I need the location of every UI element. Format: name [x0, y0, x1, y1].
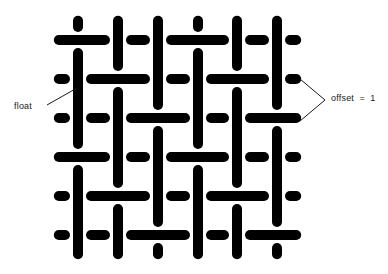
warp-segment — [272, 16, 282, 110]
warp-segment — [113, 204, 123, 259]
weft-segment — [126, 152, 150, 162]
weft-segment — [54, 191, 70, 201]
weft-segment — [54, 35, 110, 45]
weave-diagram: float offset = 1 — [0, 0, 388, 274]
warp-segment — [232, 204, 242, 259]
weft-segment — [166, 35, 229, 45]
warp-segment — [113, 87, 123, 188]
weft-segment — [245, 113, 301, 123]
weft-segment — [206, 191, 269, 201]
weave-canvas — [0, 0, 388, 274]
weft-segment — [245, 35, 269, 45]
weft-segment — [54, 74, 70, 84]
weft-segment — [285, 74, 301, 84]
weft-segment — [54, 230, 70, 240]
weft-segment — [245, 230, 301, 240]
weft-segment — [206, 74, 269, 84]
warp-segment — [272, 243, 282, 259]
weft-segment — [166, 74, 190, 84]
weft-segment — [126, 230, 190, 240]
weft-segment — [126, 35, 150, 45]
warp-segment — [153, 126, 163, 227]
warp-segment — [153, 243, 163, 259]
weft-segment — [206, 113, 229, 123]
warp-segment — [113, 16, 123, 71]
weft-segment — [86, 230, 110, 240]
weft-segment — [86, 74, 150, 84]
warp-segment — [73, 48, 83, 149]
warp-segment — [153, 16, 163, 110]
weft-segment — [285, 35, 301, 45]
warp-segment — [232, 16, 242, 71]
warp-segment — [73, 165, 83, 259]
weft-segment — [285, 191, 301, 201]
weft-segment — [245, 152, 269, 162]
float-label: float — [14, 101, 32, 111]
weft-segment — [206, 230, 229, 240]
weft-segment — [54, 152, 110, 162]
weft-segment — [86, 113, 110, 123]
warp-segment — [193, 48, 203, 149]
warp-segment — [193, 16, 203, 32]
weft-segment — [54, 113, 70, 123]
warp-segment — [193, 165, 203, 259]
weft-segment — [166, 191, 190, 201]
weft-segment — [126, 113, 190, 123]
weft-segment — [86, 191, 150, 201]
warp-segment — [73, 16, 83, 32]
warp-segment — [272, 126, 282, 227]
weft-segment — [285, 152, 301, 162]
offset-label: offset = 1 — [331, 93, 376, 103]
weft-segment — [166, 152, 229, 162]
warp-segment — [232, 87, 242, 188]
